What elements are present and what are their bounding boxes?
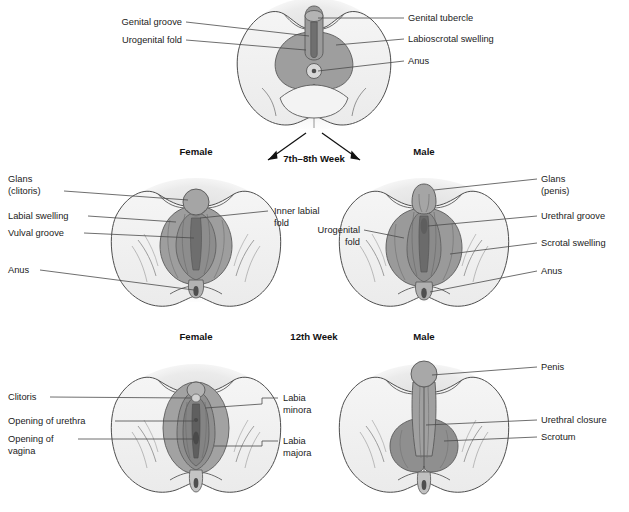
arrow-left-head	[268, 151, 278, 161]
header-male-week12: Male	[413, 331, 434, 342]
label-glans-clitoris-line1: Glans	[8, 174, 33, 184]
label-anus-indifferent: Anus	[408, 56, 430, 66]
week12-male-figure	[338, 361, 510, 494]
label-labioscrotal-swelling: Labioscrotal swelling	[408, 34, 494, 44]
week78-female-figure	[110, 178, 282, 306]
label-glans-penis-line1: Glans	[541, 174, 566, 184]
label-labia-minora-line2: minora	[283, 405, 312, 415]
stage-indifferent: Genital groove Urogenital fold Genital t…	[122, 0, 494, 130]
stage-week-7-8: Female Male Glans (clitoris) Labial swel…	[8, 146, 606, 306]
label-anus-female-week78: Anus	[8, 265, 30, 275]
header-male-week78: Male	[413, 146, 434, 157]
label-vulval-groove: Vulval groove	[8, 228, 64, 238]
label-opening-of-vagina-line1: Opening of	[8, 434, 54, 444]
label-glans-penis-line2: (penis)	[541, 186, 569, 196]
arrow-right-head	[351, 151, 361, 161]
header-female-week78: Female	[179, 146, 212, 157]
label-urogenital-fold: Urogenital fold	[122, 35, 182, 45]
label-scrotal-swelling: Scrotal swelling	[541, 238, 606, 248]
label-inner-labial-fold-line1: Inner labial	[274, 206, 319, 216]
label-genital-groove: Genital groove	[122, 17, 182, 27]
label-labia-minora-line1: Labia	[283, 393, 307, 403]
label-labia-majora-line1: Labia	[283, 436, 307, 446]
week12-female-figure	[110, 364, 282, 492]
diagram-canvas: Genital groove Urogenital fold Genital t…	[0, 0, 629, 512]
label-opening-of-urethra: Opening of urethra	[8, 416, 86, 426]
genital-development-diagram: Genital groove Urogenital fold Genital t…	[0, 0, 629, 512]
label-urethral-closure: Urethral closure	[541, 415, 607, 425]
label-labia-majora-line2: majora	[283, 448, 312, 458]
branch-arrows: 7th–8th Week	[268, 133, 360, 164]
label-anus-male-week78: Anus	[541, 266, 563, 276]
label-inner-labial-fold-line2: fold	[274, 218, 289, 228]
stage-marker-week12: 12th Week	[290, 331, 338, 342]
label-labial-swelling: Labial swelling	[8, 211, 68, 221]
label-genital-tubercle: Genital tubercle	[408, 13, 473, 23]
label-urogenital-fold-line1: Urogenital	[318, 225, 360, 235]
label-penis: Penis	[541, 362, 565, 372]
label-opening-of-vagina-line2: vagina	[8, 446, 36, 456]
label-glans-clitoris-line2: (clitoris)	[8, 186, 41, 196]
label-urethral-groove: Urethral groove	[541, 211, 605, 221]
stage-week-12: Female 12th Week Male Clitoris Opening o…	[8, 331, 607, 494]
label-clitoris: Clitoris	[8, 392, 37, 402]
label-scrotum: Scrotum	[541, 432, 576, 442]
stage-marker-week78: 7th–8th Week	[283, 153, 345, 164]
label-urogenital-fold-line2: fold	[345, 237, 360, 247]
week78-male-figure	[338, 178, 510, 306]
header-female-week12: Female	[179, 331, 212, 342]
